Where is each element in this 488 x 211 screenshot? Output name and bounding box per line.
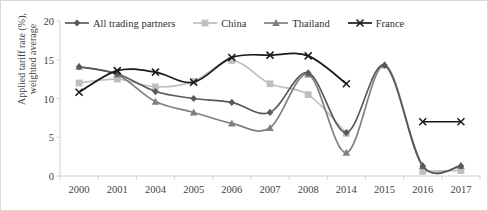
x-marker bbox=[343, 80, 350, 87]
x-tick-label: 2000 bbox=[69, 184, 90, 195]
data-point-diamond bbox=[190, 95, 197, 102]
data-point-square bbox=[305, 91, 312, 98]
legend-marker-square-icon bbox=[192, 18, 218, 28]
x-tick-label: 2001 bbox=[107, 184, 128, 195]
x-tick-label: 2006 bbox=[221, 184, 242, 195]
square-marker bbox=[76, 80, 83, 87]
y-tick-label: 15 bbox=[28, 54, 54, 65]
legend-item-france[interactable]: France bbox=[347, 18, 405, 29]
legend-marker-triangle-icon bbox=[263, 18, 289, 28]
y-tick-label: 5 bbox=[28, 132, 54, 143]
data-point-square bbox=[202, 20, 209, 27]
data-point-diamond bbox=[267, 109, 274, 116]
tariff-line-chart: Applied tariff rate (%), weighted averag… bbox=[0, 0, 488, 211]
series-all-trading-partners bbox=[76, 62, 464, 174]
plot-area bbox=[60, 21, 480, 176]
data-point-diamond bbox=[74, 19, 81, 26]
legend-item-china[interactable]: China bbox=[192, 18, 246, 29]
x-tick-label: 2016 bbox=[412, 184, 433, 195]
y-tick-label: 10 bbox=[28, 93, 54, 104]
square-marker bbox=[267, 80, 274, 87]
legend-label: France bbox=[376, 18, 405, 29]
diamond-marker bbox=[190, 95, 197, 102]
plot-svg bbox=[60, 21, 480, 176]
y-tick-label: 20 bbox=[28, 16, 54, 27]
legend-item-thailand[interactable]: Thailand bbox=[263, 18, 329, 29]
y-axis-tick-labels: 20151050 bbox=[28, 1, 54, 211]
x-tick-label: 2007 bbox=[260, 184, 281, 195]
data-point-diamond bbox=[229, 99, 236, 106]
x-tick-label: 2014 bbox=[336, 184, 357, 195]
square-marker bbox=[202, 20, 209, 27]
x-marker bbox=[76, 89, 83, 96]
x-tick-label: 2008 bbox=[298, 184, 319, 195]
diamond-marker bbox=[74, 19, 81, 26]
square-marker bbox=[305, 91, 312, 98]
series-thailand bbox=[75, 61, 464, 173]
legend-marker-diamond-icon bbox=[64, 18, 90, 28]
triangle-marker bbox=[152, 98, 160, 105]
legend-item-all-trading-partners[interactable]: All trading partners bbox=[64, 18, 175, 29]
x-tick-label: 2005 bbox=[183, 184, 204, 195]
legend-marker-x-icon bbox=[347, 18, 373, 28]
legend-label: All trading partners bbox=[93, 18, 175, 29]
diamond-marker bbox=[267, 109, 274, 116]
data-point-triangle bbox=[152, 98, 160, 105]
x-tick-label: 2004 bbox=[145, 184, 166, 195]
y-tick-label: 0 bbox=[28, 171, 54, 182]
legend-label: China bbox=[221, 18, 246, 29]
data-point-square bbox=[76, 80, 83, 87]
data-point-x bbox=[343, 80, 350, 87]
x-tick-label: 2015 bbox=[374, 184, 395, 195]
chart-legend: All trading partnersChinaThailandFrance bbox=[64, 15, 404, 31]
data-point-square bbox=[267, 80, 274, 87]
legend-label: Thailand bbox=[292, 18, 329, 29]
data-point-x bbox=[76, 89, 83, 96]
diamond-marker bbox=[229, 99, 236, 106]
x-tick-label: 2017 bbox=[450, 184, 471, 195]
